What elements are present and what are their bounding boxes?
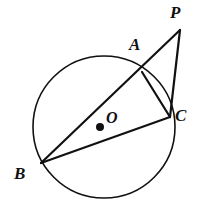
- vertex-label-c: C: [175, 107, 186, 124]
- vertex-label-b: B: [14, 165, 25, 182]
- vertex-label-a: A: [129, 36, 140, 53]
- segment-BP: [41, 30, 180, 163]
- geometry-figure: P A C B O: [0, 0, 202, 209]
- geometry-canvas: [0, 0, 202, 209]
- vertex-label-p: P: [170, 4, 180, 21]
- center-label-o: O: [106, 110, 118, 126]
- segment-PC: [170, 30, 180, 117]
- center-point-dot: [96, 123, 104, 131]
